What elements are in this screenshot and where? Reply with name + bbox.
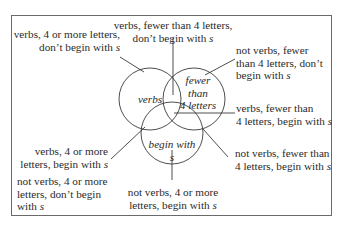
line: verbs, fewer than [236,102,332,115]
region-upper-left-label: verbs, 4 or more letters, don’t begin wi… [12,28,120,53]
line: don’t begin with [133,32,210,44]
s-italic: s [328,115,332,127]
line: not verbs, fewer than [235,147,332,160]
line: verbs, fewer than 4 letters, [113,19,233,32]
line: than 4 letters, don’t [236,57,332,70]
s-italic: s [40,200,44,212]
leader-lower-right [203,129,228,157]
region-bottom-label: not verbs, 4 or more letters, begin with… [118,186,228,211]
s-line: s [145,151,199,164]
line: don’t begin with [39,41,116,53]
line: letters, don’t begin [17,188,117,201]
line: verbs, 4 or more letters, [12,28,120,41]
than-line: than [178,87,218,100]
leader-upper-left [120,57,144,72]
s-italic: s [209,32,213,44]
line: letters, begin with [129,199,212,211]
line: not verbs, 4 or more [118,186,228,199]
line: not verbs, 4 or more [17,175,117,188]
s-italic: s [327,160,331,172]
region-outside-label: not verbs, 4 or more letters, don’t begi… [17,175,117,213]
begin-with-line: begin with [145,138,199,151]
verbs-set-label: verbs [127,93,173,106]
s-italic: s [116,41,120,53]
region-lower-right-label: not verbs, fewer than 4 letters, begin w… [235,147,332,172]
leader-lower-left [111,127,145,159]
leader-upper-right [205,59,235,75]
line: letters, begin with [20,158,103,170]
s-italic: s [286,69,290,81]
region-top-label: verbs, fewer than 4 letters, don’t begin… [113,19,233,44]
line: not verbs, fewer [236,44,332,57]
4-letters-line: 4 letters [178,99,218,112]
region-lower-left-label: verbs, 4 or more letters, begin with s [12,145,108,170]
s-italic: s [104,158,108,170]
fewer-set-label: fewer than 4 letters [178,74,218,112]
region-upper-right-label: not verbs, fewer than 4 letters, don’t b… [236,44,332,82]
begin-set-label: begin with s [145,138,199,163]
line: 4 letters, begin with [236,115,328,127]
region-mid-right-label: verbs, fewer than 4 letters, begin with … [236,102,332,127]
line: with [17,200,40,212]
line: begin with [236,69,286,81]
line: verbs, 4 or more [12,145,108,158]
s-italic: s [212,199,216,211]
line: 4 letters, begin with [235,160,327,172]
fewer-line: fewer [178,74,218,87]
